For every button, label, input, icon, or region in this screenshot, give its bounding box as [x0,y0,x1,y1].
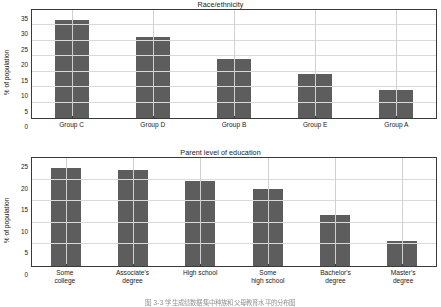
y-axis-label: % of population [1,148,12,293]
x-tick-mark [133,264,134,267]
gridline [32,200,436,201]
chart-parent-education: Parent level of education % of populatio… [0,148,441,293]
x-tick-mark [66,264,67,267]
y-tick-label: 0 [24,271,28,278]
x-tick-mark [153,116,154,119]
y-axis-label: % of population [1,0,12,145]
x-tick-label: Bachelor's degree [302,269,370,284]
x-tick-label: Group A [356,121,437,129]
gridline [32,222,436,223]
plot-area-wrapper: 05101520253035 [12,9,437,119]
y-tick-label: 10 [21,92,28,99]
y-axis-ticks: 05101520253035 [12,9,30,119]
x-tick-mark [200,264,201,267]
vertical-gridline [335,158,336,266]
y-tick-label: 30 [21,30,28,37]
x-tick-label: High school [166,269,234,284]
x-tick-mark [234,116,235,119]
vertical-gridline [402,158,403,266]
vertical-gridline [153,10,154,118]
y-axis-label-text: % of population [3,198,10,243]
chart-title: Race/ethnicity [0,0,441,9]
y-tick-label: 25 [21,45,28,52]
y-tick-label: 10 [21,227,28,234]
x-tick-label: Group D [112,121,193,129]
x-tick-mark [72,116,73,119]
y-tick-label: 25 [21,163,28,170]
gridline [32,179,436,180]
vertical-gridline [133,158,134,266]
y-tick-label: 20 [21,184,28,191]
y-tick-label: 15 [21,76,28,83]
x-tick-label: Group E [275,121,356,129]
y-tick-label: 20 [21,61,28,68]
y-axis-ticks: 0510152025 [12,157,30,267]
y-axis-label-text: % of population [3,50,10,95]
y-tick-label: 5 [24,249,28,256]
x-axis-labels: Some collegeAssociate's degreeHigh schoo… [31,269,437,284]
y-tick-label: 5 [24,107,28,114]
y-tick-label: 35 [21,15,28,22]
plot-area [31,9,437,119]
figure-container: Race/ethnicity % of population 051015202… [0,0,441,307]
bar-series [32,158,436,266]
vertical-gridline [315,10,316,118]
vertical-gridline [200,158,201,266]
x-tick-label: Some college [31,269,99,284]
chart-race-ethnicity: Race/ethnicity % of population 051015202… [0,0,441,145]
x-axis-labels: Group CGroup DGroup BGroup EGroup A [31,121,437,129]
vertical-gridline [234,10,235,118]
vertical-gridline [72,10,73,118]
x-tick-mark [335,264,336,267]
vertical-gridline [268,158,269,266]
x-tick-mark [402,264,403,267]
x-tick-mark [268,264,269,267]
y-tick-label: 0 [24,123,28,130]
gridline [32,243,436,244]
plot-area [31,157,437,267]
plot-area-wrapper: 0510152025 [12,157,437,267]
x-tick-mark [315,116,316,119]
figure-caption: 图 3-3 学生成绩数据集中种族和父母教育水平的分布图 [0,297,441,307]
x-tick-label: Group B [193,121,274,129]
vertical-gridline [66,158,67,266]
x-tick-label: Some high school [234,269,302,284]
chart-title: Parent level of education [0,148,441,157]
x-tick-label: Associate's degree [99,269,167,284]
x-tick-label: Master's degree [369,269,437,284]
y-tick-label: 15 [21,206,28,213]
x-tick-label: Group C [31,121,112,129]
x-tick-mark [396,116,397,119]
vertical-gridline [396,10,397,118]
